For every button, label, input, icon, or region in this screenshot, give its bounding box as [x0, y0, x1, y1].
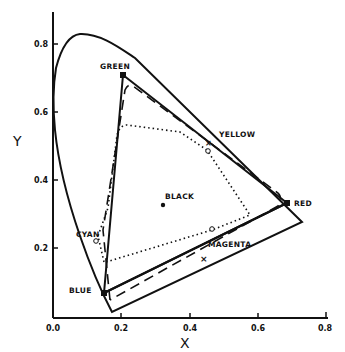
yellow-label: YELLOW: [218, 130, 256, 139]
cyan-o-marker: [94, 239, 99, 244]
red-label: RED: [294, 199, 312, 208]
primaries-gamut: [104, 75, 287, 293]
y-tick-label: 0.8: [34, 40, 49, 49]
blue-primary-marker: [101, 290, 107, 296]
chromaticity-diagram: 0.0 0.2 0.4 0.6 0.8 0.2 0.4 0.6 0.8 X Y …: [0, 0, 345, 352]
cyan-label: CYAN: [76, 230, 100, 239]
magenta-x-marker: ×: [200, 254, 208, 264]
y-tick-label: 0.6: [34, 108, 49, 117]
x-tick-label: 0.0: [46, 324, 61, 333]
y-tick-label: 0.4: [34, 176, 49, 185]
yellow-o-marker: [206, 149, 211, 154]
black-point-marker: [161, 203, 165, 207]
yellow-x-marker: ×: [205, 139, 212, 148]
y-axis-label: Y: [12, 133, 22, 149]
green-primary-marker: [120, 72, 126, 78]
magenta-o-marker: [210, 227, 215, 232]
x-tick-label: 0.6: [251, 324, 266, 333]
y-tick-label: 0.2: [34, 244, 48, 253]
x-tick-label: 0.2: [114, 324, 128, 333]
x-tick-label: 0.8: [318, 324, 333, 333]
x-axis-label: X: [180, 335, 190, 351]
black-label: BLACK: [165, 192, 195, 201]
magenta-label: MAGENTA: [208, 240, 251, 249]
blue-label: BLUE: [69, 286, 92, 295]
x-tick-label: 0.4: [183, 324, 198, 333]
green-label: GREEN: [100, 62, 130, 71]
spectral-locus: [53, 34, 302, 312]
red-primary-marker: [284, 200, 290, 206]
